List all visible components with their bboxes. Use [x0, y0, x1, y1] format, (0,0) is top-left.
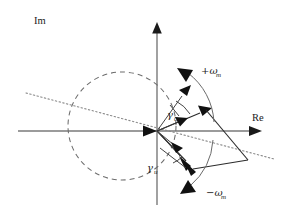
imaginary-axis-label: Im	[34, 15, 46, 26]
axis-group	[18, 22, 262, 205]
gamma-zero-arc	[176, 101, 190, 114]
triangle-edge-lower	[193, 160, 248, 169]
upper-vector-group	[157, 85, 248, 160]
lower-vector-group	[157, 131, 248, 176]
arc-omega-negative	[190, 140, 213, 186]
angle-arc-group	[160, 101, 190, 168]
omega-negative-subscript: m	[221, 193, 226, 201]
omega-positive-subscript: m	[216, 71, 221, 79]
gamma-u-tick	[160, 148, 186, 168]
nyquist-diagram-svg: Im Re +ω m −ω m γ 0 γ u	[0, 0, 283, 211]
vector-upper-diagonal-arrowhead	[179, 85, 191, 96]
gamma-zero-label: γ	[167, 109, 173, 120]
real-axis-arrowhead	[249, 126, 262, 136]
unit-circle	[68, 72, 176, 180]
gamma-u-subscript: u	[154, 168, 158, 176]
gamma-u-label: γ	[147, 162, 153, 173]
complex-plane-figure: Im Re +ω m −ω m γ 0 γ u	[0, 0, 283, 211]
gamma-zero-subscript: 0	[174, 115, 178, 123]
dotted-diagonal-line	[26, 93, 274, 159]
imaginary-axis-arrowhead	[152, 22, 162, 34]
triangle-edge-upper	[206, 110, 248, 160]
gamma-u-arc	[173, 157, 182, 163]
real-axis-label: Re	[252, 112, 264, 123]
